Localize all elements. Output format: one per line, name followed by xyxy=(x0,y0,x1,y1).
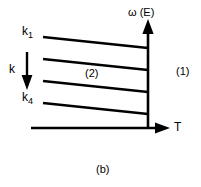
x-axis-label: T xyxy=(174,121,181,133)
k-direction-label-text: k xyxy=(9,62,15,76)
curve-label-k1-subscript: 1 xyxy=(28,30,33,40)
k-decreasing-arrow xyxy=(22,52,33,90)
k-arrow-head xyxy=(22,75,33,90)
y-axis-label: ω (E) xyxy=(128,7,154,18)
curve-k3 xyxy=(43,81,148,92)
region-label-2: (2) xyxy=(85,68,98,79)
region-label-1: (1) xyxy=(176,66,189,77)
region-label-1-text: (1) xyxy=(176,65,189,77)
y-axis-arrowhead xyxy=(142,19,153,34)
curve-k4 xyxy=(43,103,148,114)
figure-b-container: ω (E) T k1 k4 k (2) (1) (b) xyxy=(0,0,201,187)
curve-label-k1: k1 xyxy=(22,25,33,40)
curve-k1 xyxy=(43,37,148,48)
figure-caption-text: (b) xyxy=(96,163,109,175)
k-direction-label: k xyxy=(9,63,15,75)
y-axis-label-text: ω (E) xyxy=(128,6,154,18)
figure-caption: (b) xyxy=(96,164,109,175)
curve-label-k4-subscript: 4 xyxy=(28,96,33,106)
curve-label-k4: k4 xyxy=(22,91,33,106)
x-axis-label-text: T xyxy=(174,120,181,134)
y-axis-group xyxy=(142,19,153,128)
x-axis-arrowhead xyxy=(155,123,170,134)
region-label-2-text: (2) xyxy=(85,67,98,79)
